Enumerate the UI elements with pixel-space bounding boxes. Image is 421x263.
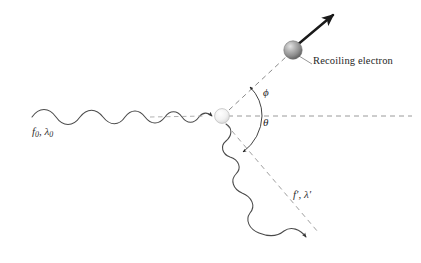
incident-lambda-subscript: 0 bbox=[49, 130, 53, 139]
scattering-vertex bbox=[215, 109, 230, 124]
compton-scattering-figure: Recoiling electron f0, λ0 f′, λ′ ϕ θ bbox=[0, 0, 421, 263]
scattered-lambda-symbol: λ′ bbox=[304, 188, 311, 200]
recoiling-electron-label: Recoiling electron bbox=[313, 56, 393, 67]
theta-angle-label: θ bbox=[263, 117, 268, 128]
phi-angle-arc bbox=[250, 87, 262, 116]
scattered-photon-label: f′, λ′ bbox=[293, 189, 311, 200]
incident-photon-axis-dash bbox=[150, 116, 206, 117]
incident-photon-label: f0, λ0 bbox=[32, 126, 53, 139]
diagram-canvas bbox=[0, 0, 421, 263]
recoiling-electron-sphere bbox=[284, 41, 302, 59]
electron-trajectory-dashed bbox=[229, 56, 287, 110]
recoil-momentum-arrow bbox=[296, 15, 333, 46]
recoiling-electron-leader-line bbox=[299, 56, 312, 64]
scattered-photon-dashed-path bbox=[226, 124, 318, 232]
phi-angle-label: ϕ bbox=[263, 87, 269, 98]
incident-photon-wave bbox=[32, 110, 212, 125]
scattered-photon-wave bbox=[223, 124, 306, 237]
